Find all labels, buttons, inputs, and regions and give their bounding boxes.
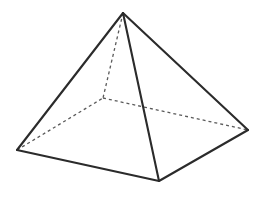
figure-stage bbox=[0, 0, 264, 219]
square-pyramid-figure bbox=[0, 0, 264, 219]
